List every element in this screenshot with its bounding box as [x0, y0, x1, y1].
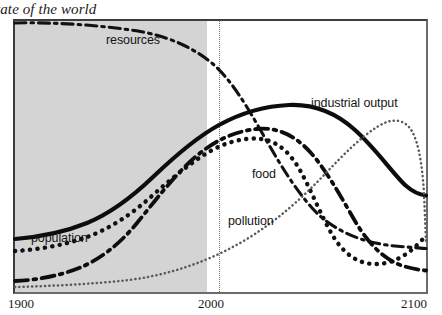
- plot-area: [13, 19, 428, 294]
- chart-root: tate of the world resources industrial o…: [0, 0, 442, 315]
- annotation-pollution: pollution: [228, 214, 274, 228]
- curves-layer: [13, 19, 428, 294]
- page-title: tate of the world: [0, 1, 96, 18]
- series-population-line: [15, 105, 426, 239]
- annotation-resources: resources: [106, 33, 160, 47]
- annotation-population: population: [31, 231, 88, 245]
- series-pollution-line: [15, 121, 426, 287]
- series-food-line: [15, 139, 426, 265]
- annotation-food: food: [252, 167, 276, 181]
- series-industrial-output-line: [15, 129, 426, 281]
- annotation-industrial-output: industrial output: [311, 96, 398, 110]
- x-axis-tick-1900: 1900: [8, 296, 34, 312]
- x-axis-tick-2000: 2000: [198, 296, 224, 312]
- x-axis-tick-2100: 2100: [401, 296, 427, 312]
